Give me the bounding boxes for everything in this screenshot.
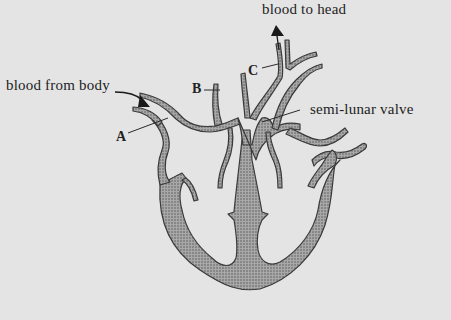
- heart-diagram: blood to head blood from body semi-lunar…: [0, 0, 451, 320]
- inner-right-vessel: [266, 132, 282, 188]
- vessel-center: [241, 73, 250, 118]
- vessel-c-right: [285, 40, 317, 70]
- heart-wall: [160, 130, 340, 290]
- label-b: B: [192, 82, 202, 96]
- vessel-a-lower: [133, 107, 162, 126]
- inner-left-vessel: [218, 128, 233, 188]
- leader-c: [262, 64, 278, 68]
- label-a: A: [116, 130, 126, 144]
- vessel-right-branch: [286, 128, 348, 146]
- vessel-right-wavy: [312, 143, 366, 166]
- blood-from-body-arrow-line: [115, 92, 142, 100]
- label-semi-lunar-valve: semi-lunar valve: [310, 102, 414, 117]
- blood-to-head-arrowhead: [271, 25, 284, 36]
- label-blood-from-body: blood from body: [6, 78, 110, 93]
- label-c: C: [248, 64, 258, 78]
- vessel-a-upper: [140, 93, 240, 132]
- heart-drawing: [0, 0, 451, 320]
- label-blood-to-head: blood to head: [262, 2, 346, 17]
- left-wall-vessel: [152, 116, 170, 185]
- left-flap: [182, 178, 198, 201]
